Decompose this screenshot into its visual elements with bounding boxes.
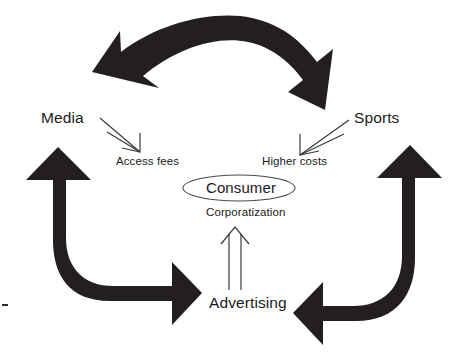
- scan-artifact-mark: [2, 304, 8, 306]
- center-label-consumer: Consumer: [206, 180, 276, 195]
- left-cycle-arrow: [26, 147, 202, 325]
- access-fees-arrow: [100, 118, 140, 152]
- higher-costs-arrow: [300, 120, 349, 155]
- flow-label-corporatization: Corporatization: [206, 207, 285, 219]
- right-cycle-arrow: [293, 145, 442, 345]
- corporatization-arrow: [221, 227, 249, 290]
- node-label-media: Media: [41, 110, 84, 126]
- node-label-advertising: Advertising: [209, 295, 287, 311]
- diagram-canvas: Media Sports Advertising Access fees Hig…: [0, 0, 468, 356]
- top-cycle-arrow: [92, 16, 333, 110]
- flow-label-access-fees: Access fees: [116, 156, 179, 168]
- node-label-sports: Sports: [354, 110, 399, 126]
- flow-label-higher-costs: Higher costs: [262, 156, 327, 168]
